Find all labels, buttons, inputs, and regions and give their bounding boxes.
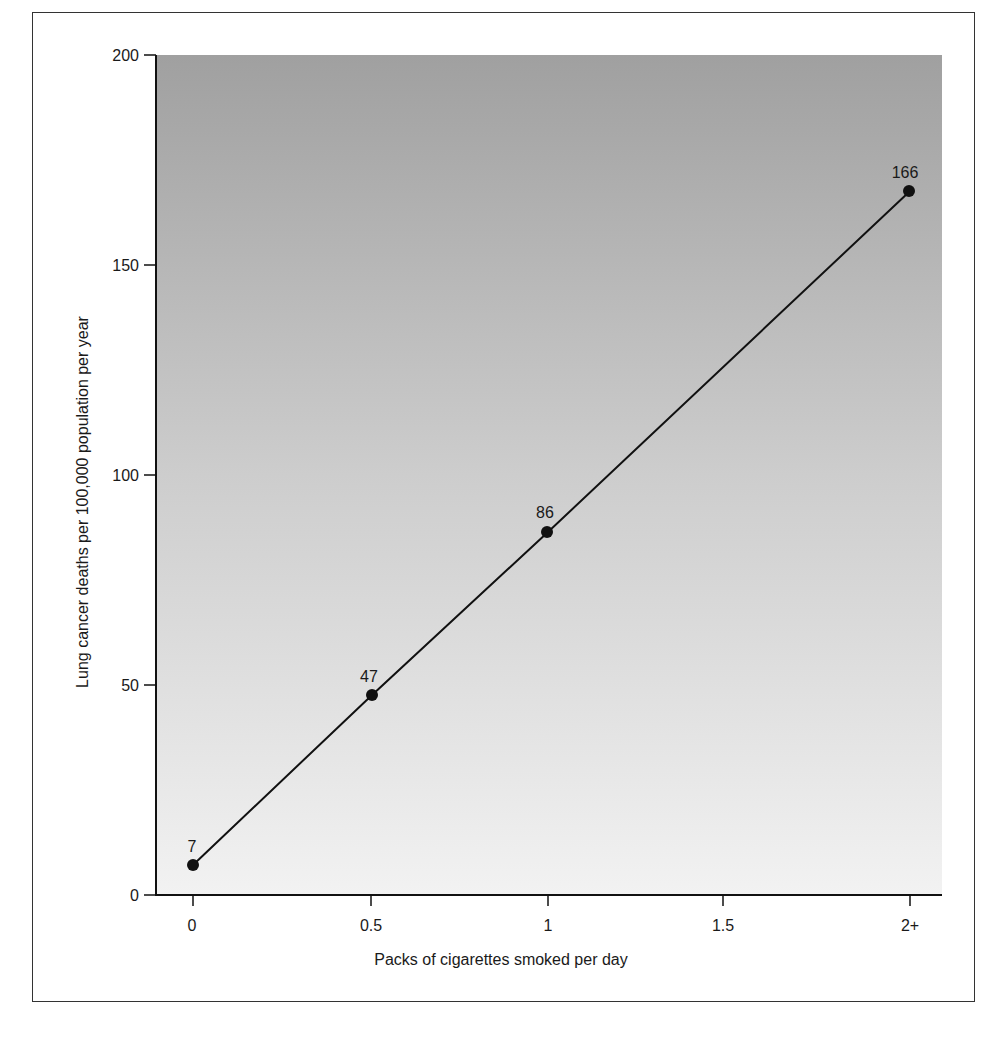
- y-tick-label: 150: [112, 257, 139, 274]
- x-ticks: [193, 895, 910, 906]
- y-tick-label: 100: [112, 467, 139, 484]
- x-tick-label: 0: [188, 917, 197, 934]
- y-tick-labels: 0 50 100 150 200: [112, 47, 139, 904]
- x-tick-label: 0.5: [360, 917, 382, 934]
- y-axis-title: Lung cancer deaths per 100,000 populatio…: [74, 315, 91, 688]
- y-ticks: [144, 55, 156, 895]
- data-point: [903, 185, 915, 197]
- x-tick-label: 1: [544, 917, 553, 934]
- plot-area: [156, 55, 942, 895]
- x-axis-title: Packs of cigarettes smoked per day: [374, 951, 627, 968]
- x-tick-label: 1.5: [712, 917, 734, 934]
- data-label: 47: [360, 668, 378, 685]
- data-label: 166: [892, 164, 919, 181]
- x-tick-label: 2+: [901, 917, 919, 934]
- data-label: 7: [188, 838, 197, 855]
- data-point: [541, 526, 553, 538]
- data-point: [366, 689, 378, 701]
- data-label: 86: [536, 504, 554, 521]
- y-tick-label: 0: [130, 887, 139, 904]
- y-tick-label: 200: [112, 47, 139, 64]
- y-tick-label: 50: [121, 677, 139, 694]
- chart: 0 50 100 150 200 0 0.5 1 1.5 2+ 7 47 86 …: [0, 0, 1001, 1044]
- x-tick-labels: 0 0.5 1 1.5 2+: [188, 917, 920, 934]
- data-point: [187, 859, 199, 871]
